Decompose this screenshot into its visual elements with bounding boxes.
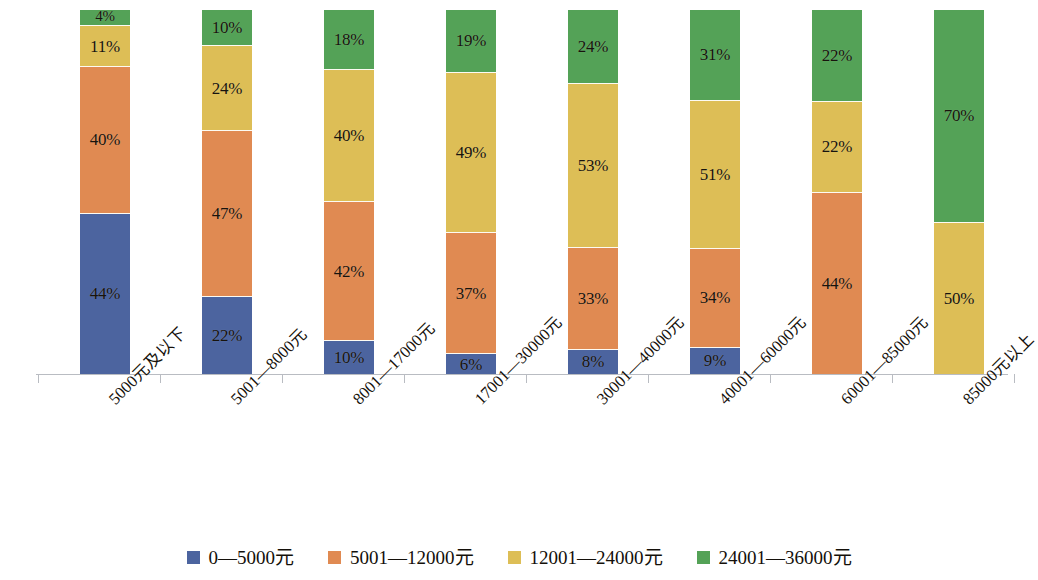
- bar-segment-label: 44%: [822, 275, 853, 292]
- bar-segment[interactable]: 53%: [568, 84, 618, 247]
- bar-group[interactable]: 31%51%34%9%: [690, 10, 740, 374]
- bar-segment[interactable]: 31%: [690, 10, 740, 101]
- bar-group[interactable]: 4%11%40%44%: [80, 10, 130, 374]
- bar-segment[interactable]: 50%: [934, 223, 984, 374]
- legend-swatch-icon: [187, 551, 200, 564]
- x-axis-tick: [770, 374, 771, 383]
- bar-group[interactable]: 10%24%47%22%: [202, 10, 252, 374]
- chart-legend: 0—5000元5001—12000元12001—24000元24001—3600…: [0, 548, 1038, 567]
- bar-segment[interactable]: 34%: [690, 249, 740, 348]
- bar-segment-label: 53%: [578, 157, 609, 174]
- bar-segment-label: 10%: [212, 19, 243, 36]
- bar-segment[interactable]: 22%: [812, 10, 862, 102]
- bar-segment-label: 44%: [90, 285, 121, 302]
- bar-segment-label: 24%: [578, 38, 609, 55]
- bar-segment[interactable]: 44%: [80, 214, 130, 374]
- bar-segment-label: 37%: [456, 285, 487, 302]
- x-axis-tick: [648, 374, 649, 383]
- legend-item[interactable]: 24001—36000元: [697, 548, 852, 567]
- bar-segment-label: 70%: [944, 107, 975, 124]
- bar-segment[interactable]: 40%: [80, 67, 130, 214]
- bar-segment-label: 10%: [334, 349, 365, 366]
- x-axis-tick: [1014, 374, 1015, 383]
- bar-segment[interactable]: 40%: [324, 70, 374, 202]
- bar-segment[interactable]: 22%: [202, 297, 252, 374]
- plot-area: 4%11%40%44%10%24%47%22%18%40%42%10%19%49…: [0, 0, 1038, 376]
- bar-segment[interactable]: 33%: [568, 248, 618, 350]
- bar-group[interactable]: 18%40%42%10%: [324, 10, 374, 374]
- legend-swatch-icon: [508, 551, 521, 564]
- bar-segment[interactable]: 42%: [324, 202, 374, 341]
- bar-segment[interactable]: 18%: [324, 10, 374, 70]
- legend-label: 5001—12000元: [350, 548, 474, 567]
- bar-segment-label: 19%: [456, 32, 487, 49]
- bar-segment[interactable]: 24%: [568, 10, 618, 84]
- bar-segment[interactable]: 37%: [446, 233, 496, 354]
- x-axis-tick: [892, 374, 893, 383]
- bar-segment[interactable]: 22%: [812, 102, 862, 194]
- legend-swatch-icon: [328, 551, 341, 564]
- bar-segment-label: 4%: [95, 9, 115, 24]
- bar-segment-label: 50%: [944, 290, 975, 307]
- bar-segment[interactable]: 24%: [202, 46, 252, 131]
- stacked-bar-chart: 4%11%40%44%10%24%47%22%18%40%42%10%19%49…: [0, 0, 1038, 580]
- x-axis-tick: [404, 374, 405, 383]
- bar-group[interactable]: 70%50%: [934, 10, 984, 374]
- bar-segment-label: 24%: [212, 80, 243, 97]
- bar-segment[interactable]: 11%: [80, 26, 130, 67]
- legend-label: 24001—36000元: [719, 548, 852, 567]
- bar-segment-label: 51%: [700, 166, 731, 183]
- x-axis-tick: [526, 374, 527, 383]
- bar-segment[interactable]: 44%: [812, 193, 862, 374]
- legend-swatch-icon: [697, 551, 710, 564]
- bar-segment[interactable]: 4%: [80, 10, 130, 26]
- bar-segment-label: 42%: [334, 263, 365, 280]
- bar-segment-label: 47%: [212, 205, 243, 222]
- bar-segment[interactable]: 70%: [934, 10, 984, 223]
- bar-segment-label: 9%: [704, 352, 726, 369]
- x-axis-tick: [38, 374, 39, 383]
- legend-item[interactable]: 12001—24000元: [508, 548, 663, 567]
- bar-segment-label: 22%: [822, 47, 853, 64]
- x-axis-tick: [160, 374, 161, 383]
- bar-segment[interactable]: 10%: [324, 341, 374, 374]
- bar-segment-label: 40%: [334, 127, 365, 144]
- bar-group[interactable]: 19%49%37%6%: [446, 10, 496, 374]
- bar-group[interactable]: 24%53%33%8%: [568, 10, 618, 374]
- bar-segment-label: 49%: [456, 144, 487, 161]
- bar-segment-label: 8%: [582, 353, 604, 370]
- bar-segment[interactable]: 47%: [202, 131, 252, 297]
- bar-segment[interactable]: 19%: [446, 10, 496, 73]
- bar-segment[interactable]: 51%: [690, 101, 740, 249]
- bar-segment-label: 11%: [90, 38, 120, 55]
- bar-segment[interactable]: 10%: [202, 10, 252, 46]
- legend-item[interactable]: 0—5000元: [187, 548, 295, 567]
- legend-item[interactable]: 5001—12000元: [328, 548, 474, 567]
- legend-label: 0—5000元: [209, 548, 295, 567]
- bar-segment-label: 22%: [822, 138, 853, 155]
- bar-segment-label: 18%: [334, 31, 365, 48]
- bar-segment-label: 33%: [578, 290, 609, 307]
- bar-segment-label: 6%: [460, 356, 482, 373]
- x-axis-tick: [282, 374, 283, 383]
- bar-segment-label: 34%: [700, 289, 731, 306]
- legend-label: 12001—24000元: [530, 548, 663, 567]
- bar-segment-label: 40%: [90, 131, 121, 148]
- bar-segment[interactable]: 49%: [446, 73, 496, 233]
- bar-segment-label: 22%: [212, 327, 243, 344]
- bar-group[interactable]: 22%22%44%: [812, 10, 862, 374]
- bar-segment-label: 31%: [700, 46, 731, 63]
